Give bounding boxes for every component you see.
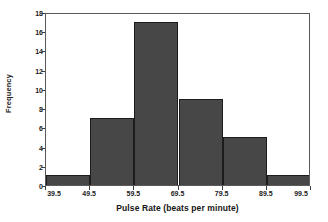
histogram-bar [267, 175, 310, 185]
y-axis-tick-label: 12 [28, 67, 43, 74]
x-axis-title: Pulse Rate (beats per minute) [45, 203, 310, 213]
y-axis-tick-label: 10 [28, 86, 43, 93]
y-axis-tick-label: 16 [28, 29, 43, 36]
histogram-bar [134, 22, 178, 185]
y-axis-tick-label: 0 [28, 183, 43, 190]
histogram-bar [179, 99, 223, 186]
histogram-chart: Frequency 024681012141618 39.549.559.569… [0, 0, 328, 222]
y-axis-tick-label: 14 [28, 48, 43, 55]
x-axis-tick-label: 59.5 [127, 190, 141, 197]
x-axis-tick-labels: 39.549.559.569.579.589.599.5 [45, 190, 310, 202]
x-axis-tick-label: 99.5 [294, 190, 308, 197]
y-axis-tick-label: 6 [28, 125, 43, 132]
y-axis-tick-labels: 024681012141618 [26, 0, 43, 222]
y-axis-title: Frequency [0, 0, 16, 186]
plot-area [45, 13, 310, 186]
histogram-bars [46, 14, 309, 185]
y-axis-tick-label: 18 [28, 10, 43, 17]
y-axis-tick-label: 4 [28, 144, 43, 151]
histogram-bar [223, 137, 267, 185]
x-axis-tick-label: 79.5 [215, 190, 229, 197]
histogram-bar [46, 175, 90, 185]
x-axis-tick-label: 89.5 [259, 190, 273, 197]
y-axis-tick-label: 2 [28, 163, 43, 170]
y-axis-tick-label: 8 [28, 106, 43, 113]
histogram-bar [90, 118, 134, 185]
y-axis-title-label: Frequency [4, 74, 13, 113]
x-axis-tick-label: 69.5 [171, 190, 185, 197]
x-axis-tick-label: 39.5 [47, 190, 61, 197]
x-axis-tick-mark [310, 186, 311, 190]
x-axis-tick-label: 49.5 [82, 190, 96, 197]
